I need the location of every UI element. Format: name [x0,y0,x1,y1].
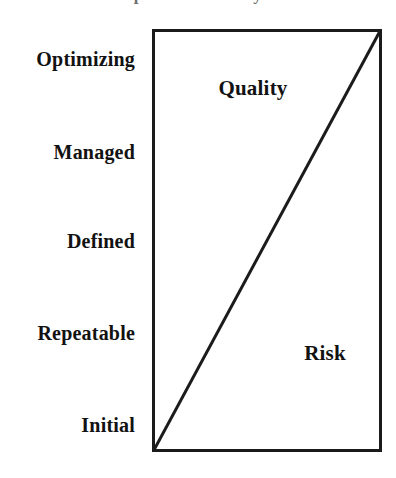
figure-caption-text: process maturity [0,0,396,5]
axis-label-optimizing: Optimizing [36,49,135,69]
maturity-quality-risk-figure: process maturity Optimizing Managed Defi… [0,0,396,478]
axis-label-managed: Managed [54,142,135,162]
figure-caption-strip: process maturity [0,0,396,8]
axis-label-initial: Initial [81,415,135,435]
axis-label-repeatable: Repeatable [37,323,135,343]
region-label-quality: Quality [218,78,287,99]
region-label-risk: Risk [304,343,346,364]
axis-label-defined: Defined [67,231,135,251]
